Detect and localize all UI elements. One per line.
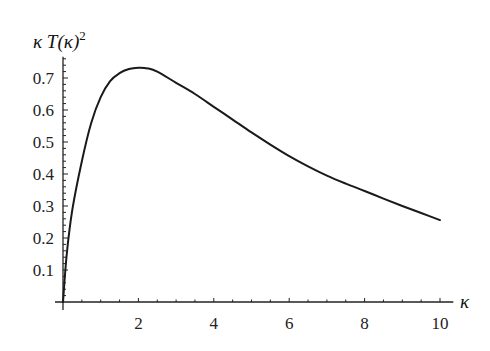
- y-tick-label: 0.1: [33, 261, 54, 280]
- y-tick-label: 0.7: [33, 69, 55, 88]
- ticks: [63, 59, 440, 302]
- x-tick-label: 10: [432, 314, 449, 333]
- chart-canvas: κ T(κ)2 2468100.10.20.30.40.50.60.7 κ: [0, 0, 490, 351]
- y-tick-label: 0.3: [33, 197, 54, 216]
- y-tick-label: 0.2: [33, 229, 54, 248]
- y-tick-label: 0.6: [33, 101, 54, 120]
- x-tick-label: 8: [360, 314, 369, 333]
- x-tick-label: 2: [134, 314, 143, 333]
- y-axis-title-sup: 2: [79, 28, 86, 43]
- y-tick-label: 0.5: [33, 133, 54, 152]
- x-tick-label: 6: [285, 314, 294, 333]
- y-axis-title: κ T(κ)2: [33, 28, 86, 53]
- data-curve: [63, 68, 440, 302]
- x-tick-label: 4: [210, 314, 219, 333]
- svg-text:κ T(κ)2: κ T(κ)2: [33, 28, 86, 53]
- axes: [55, 57, 453, 310]
- y-axis-title-base: κ T(κ): [33, 31, 79, 53]
- x-axis-title: κ: [460, 291, 470, 312]
- y-tick-label: 0.4: [33, 165, 55, 184]
